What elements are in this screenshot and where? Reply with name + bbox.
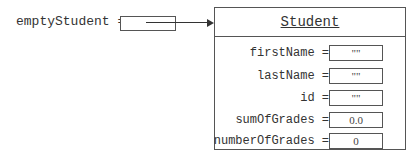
field-name: id: [300, 91, 314, 105]
field-value: "": [329, 45, 383, 61]
reference-box: [120, 16, 176, 31]
class-name: Student: [215, 8, 405, 37]
field-operator: =: [322, 91, 329, 105]
field-label: id =: [300, 91, 329, 105]
reference-arrow: [146, 22, 212, 23]
field-lastName: lastName = "": [215, 68, 405, 86]
field-name: numberOfGrades: [214, 134, 315, 148]
field-label: lastName =: [257, 69, 329, 83]
variable-name: emptyStudent: [16, 14, 110, 29]
field-value: "": [329, 68, 383, 84]
field-id: id = "": [215, 90, 405, 108]
field-value: 0: [329, 133, 383, 149]
field-sumOfGrades: sumOfGrades = 0.0: [215, 112, 405, 130]
arrowhead-icon: [207, 19, 214, 27]
field-firstName: firstName = "": [215, 45, 405, 63]
student-object: Student firstName = "" lastName = "" id …: [214, 7, 406, 150]
field-value: "": [329, 90, 383, 106]
reference-variable-label: emptyStudent =: [16, 14, 125, 29]
field-label: sumOfGrades =: [235, 113, 329, 127]
field-name: firstName: [250, 46, 315, 60]
field-operator: =: [322, 113, 329, 127]
field-label: numberOfGrades =: [214, 134, 329, 148]
field-operator: =: [322, 69, 329, 83]
field-numberOfGrades: numberOfGrades = 0: [215, 133, 405, 151]
field-label: firstName =: [250, 46, 329, 60]
field-value: 0.0: [329, 112, 383, 128]
field-operator: =: [322, 46, 329, 60]
field-name: sumOfGrades: [235, 113, 314, 127]
field-operator: =: [322, 134, 329, 148]
field-name: lastName: [257, 69, 315, 83]
